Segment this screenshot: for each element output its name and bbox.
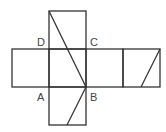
far-right-face <box>123 49 160 87</box>
center-face-abcd <box>49 49 86 87</box>
diagonal-line-right <box>141 49 160 87</box>
label-b: B <box>90 91 97 103</box>
right-face <box>86 49 123 87</box>
diagonal-line-bottom <box>67 87 86 125</box>
top-face <box>49 11 86 49</box>
label-c: C <box>90 36 98 48</box>
cube-net-diagram: D C A B <box>0 0 166 132</box>
label-a: A <box>37 91 45 103</box>
bottom-face <box>49 87 86 125</box>
label-d: D <box>37 36 45 48</box>
left-face <box>12 49 49 87</box>
